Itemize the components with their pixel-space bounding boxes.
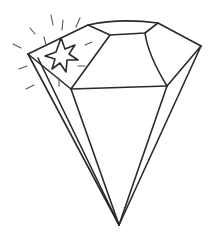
sparkle-rays bbox=[13, 15, 92, 89]
diamond-illustration: diamond gem line drawing bbox=[0, 0, 214, 241]
diamond-pavilion bbox=[28, 46, 201, 225]
diamond-crown bbox=[28, 21, 201, 89]
diamond-icon bbox=[0, 0, 214, 241]
